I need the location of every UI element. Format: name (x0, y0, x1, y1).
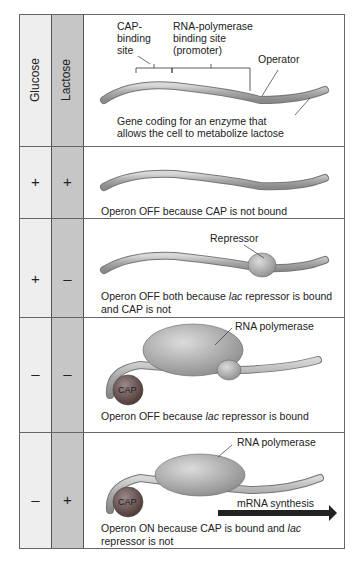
label-promoter: RNA-polymerasebinding site(promoter) (173, 20, 253, 56)
caption-row-2: Operon OFF both because lac repressor is… (101, 290, 341, 316)
caption-row-3: Operon OFF because lac repressor is boun… (101, 410, 309, 423)
label-operator: Operator (258, 53, 299, 65)
label-rna-polymerase: RNA polymerase (237, 436, 316, 448)
repressor-protein (217, 360, 241, 380)
rna-polymerase (155, 454, 245, 496)
label-cap: CAP (118, 496, 137, 508)
label-cap-site: CAP-bindingsite (117, 20, 151, 56)
caption-row-1: Operon OFF because CAP is not bound (101, 205, 287, 218)
label-gene: Gene coding for an enzyme thatallows the… (117, 115, 284, 139)
label-rna-polymerase: RNA polymerase (235, 320, 314, 332)
caption-row-4: Operon ON because CAP is bound and lac r… (101, 522, 331, 548)
label-repressor: Repressor (210, 232, 258, 244)
label-cap: CAP (118, 384, 137, 396)
operon-illustrations (0, 0, 359, 562)
label-mrna-synthesis: mRNA synthesis (237, 497, 314, 509)
